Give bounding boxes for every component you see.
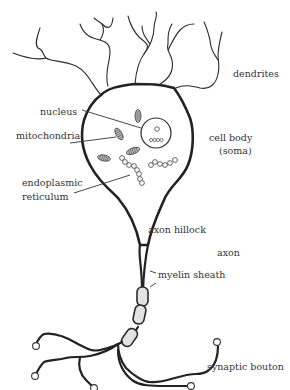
dendrite-branch <box>80 24 110 86</box>
label-myelin-sheath: myelin sheath <box>158 269 225 280</box>
dendrite-branch <box>128 16 147 84</box>
neuron-diagram: dendrites nucleus mitochondria cell body… <box>0 0 290 390</box>
er-vesicle <box>127 163 132 168</box>
er-vesicle <box>168 161 173 166</box>
myelin-segment <box>137 287 148 306</box>
nucleus-membrane <box>141 118 171 148</box>
endoplasmic-reticulum <box>120 156 178 186</box>
label-axon-hillock: axon hillock <box>148 224 206 235</box>
label-cell-body: cell body <box>209 132 253 143</box>
dendrite-branch <box>36 28 101 95</box>
label-reticulum: reticulum <box>22 191 69 202</box>
dendrite-branch <box>102 18 113 27</box>
label-synaptic-bouton: synaptic bouton <box>207 361 284 372</box>
er-vesicle <box>158 162 163 167</box>
myelin-segment <box>132 304 147 325</box>
dendrite-branch <box>13 53 46 59</box>
mitochondrion <box>97 154 111 162</box>
cell-body-outline <box>82 84 193 245</box>
label-soma: (soma) <box>219 145 252 156</box>
er-vesicle <box>163 163 168 168</box>
mitochondria <box>97 110 141 163</box>
nucleus-leader-line <box>82 110 141 128</box>
dendrite-branch <box>204 22 218 60</box>
dendrite-branch <box>160 24 173 84</box>
synaptic-bouton <box>33 343 40 350</box>
nucleolus <box>155 127 160 132</box>
er-vesicle <box>153 160 158 165</box>
mitochondrion <box>135 110 141 123</box>
er-vesicle <box>173 158 178 163</box>
synaptic-bouton <box>214 339 221 346</box>
er-vesicle <box>137 172 142 177</box>
dendrites <box>13 12 222 95</box>
dendrite-branch <box>142 26 150 44</box>
synaptic-bouton <box>32 373 39 380</box>
dendrite-branch <box>94 18 103 40</box>
label-nucleus: nucleus <box>40 106 77 117</box>
axon <box>120 245 148 348</box>
synaptic-bouton <box>91 385 98 390</box>
mitochondrion <box>113 127 125 141</box>
dendrite-branch <box>168 24 194 50</box>
nucleus <box>141 118 171 148</box>
label-dendrites: dendrites <box>233 68 279 79</box>
dendrite-branch <box>176 32 222 88</box>
dendrite-branch <box>144 12 157 54</box>
synaptic-bouton <box>188 383 195 390</box>
myelin-leader-line <box>150 283 156 287</box>
er-vesicle <box>140 181 145 186</box>
label-mitochondria: mitochondria <box>16 130 81 141</box>
label-endoplasmic: endoplasmic <box>22 177 83 188</box>
myelin-leader-line <box>150 271 156 273</box>
mitochondrion <box>125 146 140 156</box>
label-axon: axon <box>217 247 240 258</box>
